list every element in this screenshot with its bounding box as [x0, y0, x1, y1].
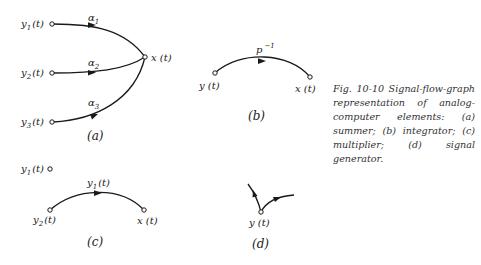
node-x-c — [142, 208, 146, 212]
label-y-b: y (t) — [198, 80, 220, 91]
arrow-b — [258, 58, 266, 64]
arrow-d-2 — [273, 197, 281, 202]
arrow-d-1 — [253, 190, 258, 198]
panel-label-a: (a) — [87, 129, 104, 143]
panel-label-b: (b) — [248, 109, 265, 123]
node-y1 — [50, 22, 54, 26]
node-y1-c — [48, 167, 52, 171]
label-x-b: x (t) — [295, 83, 316, 94]
label-y1-c-control: y1(t) — [20, 163, 44, 177]
node-y3 — [50, 120, 54, 124]
node-x-a — [143, 55, 147, 59]
label-alpha3: α3 — [88, 97, 100, 111]
label-gain-y1-c: y1(t) — [86, 177, 110, 191]
panel-label-c: (c) — [87, 235, 103, 249]
label-y1: y1(t) — [20, 18, 44, 32]
panel-b-integrator: y (t) x (t) p−1 (b) — [198, 42, 316, 123]
arrow-a3 — [90, 114, 98, 120]
edge-a1 — [53, 24, 145, 57]
label-y2: y2(t) — [20, 67, 44, 81]
node-y2-c — [48, 208, 52, 212]
label-y3: y3(t) — [20, 116, 44, 130]
label-y-d: y (t) — [248, 217, 270, 228]
edge-d-out-1 — [248, 184, 261, 212]
panel-label-d: (d) — [252, 237, 269, 251]
node-x-b — [308, 75, 312, 79]
panel-d-signal-generator: y (t) (d) — [248, 184, 294, 251]
label-p-inverse: p−1 — [256, 42, 275, 55]
arrow-c — [94, 190, 102, 196]
label-x-a: x (t) — [151, 52, 172, 63]
label-y2-c: y2(t) — [32, 214, 56, 228]
label-alpha2: α2 — [88, 57, 100, 71]
node-y-b — [213, 71, 217, 75]
figure-caption: Fig. 10-10 Signal-flow-graph representat… — [333, 82, 475, 166]
edge-c — [50, 192, 144, 210]
figure-canvas: y1(t) y2(t) y3(t) α1 α2 α3 x (t) (a) y (… — [0, 0, 481, 265]
panel-c-multiplier: y1(t) y2(t) y1(t) x (t) (c) — [20, 163, 158, 249]
node-y2 — [50, 71, 54, 75]
panel-a-summer: y1(t) y2(t) y3(t) α1 α2 α3 x (t) (a) — [20, 12, 172, 143]
node-y-d — [259, 210, 263, 214]
label-x-c: x (t) — [137, 215, 158, 226]
